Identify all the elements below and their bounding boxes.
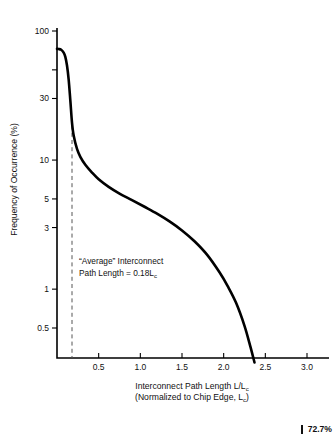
x-axis-title-line1: Interconnect Path Length L/Lc [135,381,248,392]
y-axis-title: Frequency of Occurrence (%) [9,123,19,236]
y-tick-label: 100 [35,26,49,36]
x-tick-label: 3.0 [301,362,313,372]
annotation-line2: Path Length = 0.18Lc [79,268,157,279]
distribution-curve [57,49,255,363]
y-tick-label: 3 [44,223,49,233]
y-tick-label: 5 [44,194,49,204]
x-tick-label: 2.0 [218,362,230,372]
x-axis-title-line2: (Normalized to Chip Edge, Lc) [135,392,249,403]
chart-axes [57,28,329,358]
y-tick-label: 10 [40,155,50,165]
y-tick-label: 30 [40,93,50,103]
y-tick-label: 1 [44,284,49,294]
x-tick-label: 1.0 [134,362,146,372]
frequency-vs-path-length-chart: 10030105310.50.51.01.52.02.53.0Frequency… [0,0,336,440]
x-tick-label: 2.5 [259,362,271,372]
x-tick-label: 1.5 [176,362,188,372]
peak-value-footnote: 72.7% [301,425,332,434]
annotation-line1: “Average” Interconnect [79,256,164,266]
x-tick-label: 0.5 [93,362,105,372]
chart-figure: 10030105310.50.51.01.52.02.53.0Frequency… [0,0,336,440]
peak-value-footnote-text: 72.7% [308,424,332,434]
y-tick-label: 0.5 [37,323,49,333]
